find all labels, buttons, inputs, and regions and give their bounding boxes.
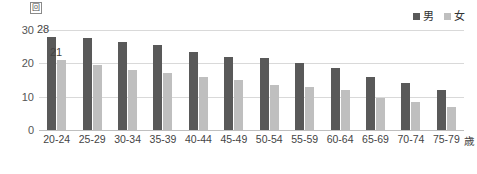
bar-value-label: 28 xyxy=(37,23,49,35)
x-axis-unit-label: 歳 xyxy=(464,133,474,148)
bar-female[interactable] xyxy=(341,90,350,130)
bar-group xyxy=(252,30,287,130)
bar-group xyxy=(287,30,322,130)
bar-group xyxy=(429,30,464,130)
legend-item-female[interactable]: 女 xyxy=(444,11,465,22)
bar-male[interactable] xyxy=(366,77,375,130)
bar-female[interactable] xyxy=(447,107,456,130)
x-axis-tick-labels: 20-2425-2930-3435-3940-4445-4950-5455-59… xyxy=(39,133,464,145)
y-axis-tick-label: 10 xyxy=(22,91,34,103)
x-axis-tick-label: 50-54 xyxy=(252,133,287,145)
x-axis-tick-label: 35-39 xyxy=(145,133,180,145)
x-axis-tick-label: 20-24 xyxy=(39,133,74,145)
plot-area: 2821 xyxy=(39,30,464,130)
legend-label-male: 男 xyxy=(423,11,434,22)
bar-group xyxy=(358,30,393,130)
bar-group xyxy=(393,30,428,130)
x-axis-tick-label: 25-29 xyxy=(74,133,109,145)
bar-female[interactable] xyxy=(199,77,208,130)
bar-female[interactable] xyxy=(93,65,102,130)
y-axis-tick-label: 20 xyxy=(22,57,34,69)
legend-swatch-male xyxy=(413,13,420,20)
legend-item-male[interactable]: 男 xyxy=(413,11,434,22)
legend-swatch-female xyxy=(444,13,451,20)
bar-female[interactable] xyxy=(234,80,243,130)
bar-male[interactable] xyxy=(189,52,198,130)
bar-female[interactable] xyxy=(376,98,385,130)
bar-male[interactable] xyxy=(295,63,304,130)
bar-male[interactable] xyxy=(118,42,127,130)
x-axis-tick-label: 70-74 xyxy=(393,133,428,145)
bar-group xyxy=(110,30,145,130)
bar-male[interactable] xyxy=(437,90,446,130)
bar-group xyxy=(181,30,216,130)
y-axis-tick-label: 30 xyxy=(22,24,34,36)
bar-male[interactable] xyxy=(401,83,410,130)
x-axis-line xyxy=(39,130,464,131)
x-axis-tick-label: 45-49 xyxy=(216,133,251,145)
bar-female[interactable] xyxy=(305,87,314,130)
x-axis-tick-label: 30-34 xyxy=(110,133,145,145)
bar-group xyxy=(322,30,357,130)
x-axis-tick-label: 55-59 xyxy=(287,133,322,145)
bar-female[interactable] xyxy=(270,85,279,130)
bar-male[interactable] xyxy=(224,57,233,130)
bar-female[interactable] xyxy=(128,70,137,130)
legend-label-female: 女 xyxy=(454,11,465,22)
bar-male[interactable] xyxy=(153,45,162,130)
x-axis-tick-label: 40-44 xyxy=(181,133,216,145)
y-axis-unit-label: 回 xyxy=(30,2,42,14)
bar-group xyxy=(216,30,251,130)
bar-male[interactable] xyxy=(331,68,340,130)
bar-female[interactable] xyxy=(163,73,172,130)
bar-male[interactable] xyxy=(83,38,92,130)
bar-female[interactable] xyxy=(57,60,66,130)
x-axis-tick-label: 65-69 xyxy=(358,133,393,145)
bar-female[interactable] xyxy=(411,102,420,130)
bar-group xyxy=(145,30,180,130)
x-axis-tick-label: 75-79 xyxy=(429,133,464,145)
bar-group: 2821 xyxy=(39,30,74,130)
bar-group xyxy=(74,30,109,130)
bar-male[interactable] xyxy=(260,58,269,130)
y-axis-tick-labels: 0102030 xyxy=(12,30,34,130)
y-axis-tick-label: 0 xyxy=(28,124,34,136)
bar-value-label: 21 xyxy=(50,46,62,58)
bar-chart: 回 男 女 0102030 2821 20-2425-2930-3435-394… xyxy=(0,0,477,174)
chart-legend: 男 女 xyxy=(413,11,465,22)
x-axis-tick-label: 60-64 xyxy=(322,133,357,145)
bar-groups: 2821 xyxy=(39,30,464,130)
